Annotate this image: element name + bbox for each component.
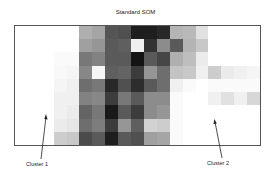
cluster2-arrow-icon <box>214 119 223 158</box>
cluster1-arrow-icon <box>41 114 48 159</box>
cluster1-label: Cluster 1 <box>26 161 48 167</box>
cluster2-label: Cluster 2 <box>207 160 229 166</box>
annotation-arrows <box>0 0 271 179</box>
